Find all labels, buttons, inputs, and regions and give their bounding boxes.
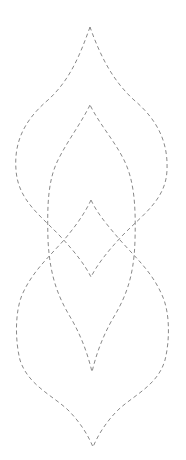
inner-upper-leaf-shape xyxy=(48,105,136,372)
outer-upper-leaf-shape xyxy=(16,27,167,277)
outer-lower-leaf-shape xyxy=(16,200,168,447)
pattern-canvas xyxy=(0,0,186,460)
